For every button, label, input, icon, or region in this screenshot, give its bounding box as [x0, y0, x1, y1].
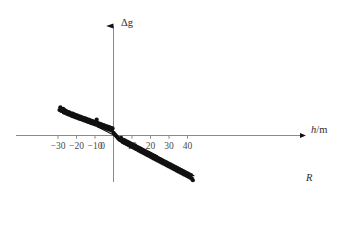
x-axis-label: h/m [311, 124, 327, 135]
y-axis-label: Δg [121, 17, 134, 28]
plot-canvas: −30−20−10010203040 R Δg h/m [0, 0, 343, 239]
x-tick-label: 30 [164, 141, 174, 151]
figure-caption [0, 223, 343, 239]
svg-text:h/m: h/m [311, 124, 327, 135]
x-tick-label: −20 [69, 141, 84, 151]
regression-line-label: R [305, 172, 313, 183]
x-tick-label: −30 [51, 141, 66, 151]
x-tick-label: 40 [183, 141, 193, 151]
data-point [110, 126, 114, 130]
data-point [191, 178, 195, 182]
x-tick-label: 20 [146, 141, 156, 151]
scatter-plot-figure: −30−20−10010203040 R Δg h/m [0, 0, 343, 239]
x-tick-label: 0 [100, 141, 105, 151]
